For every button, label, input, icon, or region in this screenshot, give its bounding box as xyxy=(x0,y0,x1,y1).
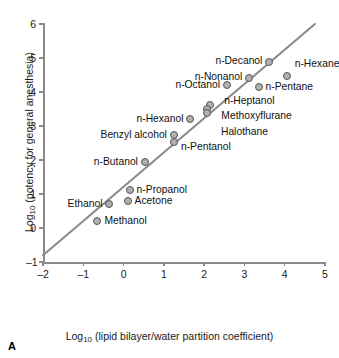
point-label-acetone: Acetone xyxy=(135,195,173,206)
x-tick-label-3: 1 xyxy=(161,269,167,280)
data-point-n-propanol[interactable] xyxy=(126,186,134,194)
x-tick-6 xyxy=(284,262,285,266)
data-point-n-pentanol[interactable] xyxy=(170,138,178,146)
data-point-n-octanol[interactable] xyxy=(223,81,231,89)
data-point-halothane[interactable] xyxy=(203,109,211,117)
panel-letter: A xyxy=(8,340,16,352)
y-tick-6 xyxy=(39,57,43,58)
data-point-acetone[interactable] xyxy=(124,197,132,205)
y-tick-4 xyxy=(39,125,43,126)
data-point-n-nonanol[interactable] xyxy=(245,74,253,82)
y-axis-title-prefix: Log xyxy=(23,214,35,232)
y-axis-title-rest: (potency for general anesthesia) xyxy=(23,52,35,206)
y-tick-2 xyxy=(39,193,43,194)
figure-panel: –2–1012345–10123456MethanolEthanolAceton… xyxy=(0,0,339,358)
y-axis-title-subscript: 10 xyxy=(28,206,37,215)
y-tick-3 xyxy=(39,159,43,160)
point-label-n-hexanol: n-Hexanol xyxy=(137,113,184,124)
y-tick-0 xyxy=(39,261,43,262)
point-label-n-nonanol: n-Nonanol xyxy=(195,71,243,82)
x-tick-5 xyxy=(244,262,245,266)
data-point-methanol[interactable] xyxy=(93,217,101,225)
x-tick-label-6: 4 xyxy=(282,269,288,280)
x-axis-title-prefix: Log xyxy=(66,330,84,342)
data-point-ethanol[interactable] xyxy=(105,200,113,208)
x-tick-1 xyxy=(83,262,84,266)
point-label-n-butanol: n-Butanol xyxy=(94,156,138,167)
y-tick-1 xyxy=(39,227,43,228)
data-point-n-hexanol[interactable] xyxy=(186,115,194,123)
y-tick-5 xyxy=(39,91,43,92)
point-label-n-pentane: n-Pentane xyxy=(266,81,314,92)
data-point-n-decanol[interactable] xyxy=(265,58,273,66)
x-tick-label-4: 2 xyxy=(201,269,207,280)
point-label-n-hexane: n-Hexane xyxy=(295,59,339,70)
point-label-methoxyflurane: Methoxyflurane xyxy=(221,111,291,122)
point-label-n-heptanol: n-Heptanol xyxy=(224,95,274,106)
x-tick-3 xyxy=(163,262,164,266)
x-tick-label-7: 5 xyxy=(322,269,328,280)
x-tick-label-0: –2 xyxy=(37,269,49,280)
y-tick-7 xyxy=(39,23,43,24)
data-point-n-hexane[interactable] xyxy=(283,72,291,80)
x-tick-4 xyxy=(203,262,204,266)
point-label-n-pentanol: n-Pentanol xyxy=(181,142,231,153)
x-axis-title: Log10 (lipid bilayer/water partition coe… xyxy=(0,330,339,342)
x-tick-7 xyxy=(324,262,325,266)
point-label-n-propanol: n-Propanol xyxy=(137,184,187,195)
data-point-n-pentane[interactable] xyxy=(255,83,263,91)
x-tick-label-2: 0 xyxy=(121,269,127,280)
x-tick-label-5: 3 xyxy=(242,269,248,280)
point-label-methanol: Methanol xyxy=(104,216,146,227)
y-axis-line xyxy=(43,23,45,263)
x-tick-label-1: –1 xyxy=(77,269,89,280)
x-axis-title-rest: (lipid bilayer/water partition coefficie… xyxy=(92,330,273,342)
y-axis-title: Log10 (potency for general anesthesia) xyxy=(23,17,35,267)
point-label-halothane: Halothane xyxy=(221,127,268,138)
data-point-n-butanol[interactable] xyxy=(141,158,149,166)
point-label-benzyl-alcohol: Benzyl alcohol xyxy=(101,129,167,140)
x-axis-title-subscript: 10 xyxy=(83,335,92,344)
point-label-ethanol: Ethanol xyxy=(68,199,103,210)
x-tick-2 xyxy=(123,262,124,266)
point-label-n-decanol: n-Decanol xyxy=(215,56,262,67)
trend-line xyxy=(0,0,339,358)
